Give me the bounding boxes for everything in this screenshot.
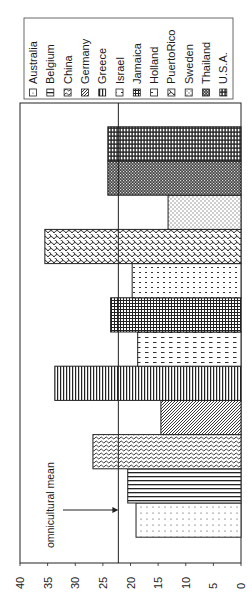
- bar-greece: [55, 366, 241, 400]
- bar-germany: [161, 400, 241, 434]
- axis-tick-label: 15: [152, 577, 164, 589]
- bar-thailand: [108, 161, 241, 195]
- value-axis: 0510152025303540: [14, 563, 247, 589]
- legend-swatch-icon: [30, 89, 37, 96]
- legend-swatch-icon: [81, 89, 88, 96]
- legend: AustraliaBelgiumChinaGermanyGreeceIsrael…: [24, 18, 233, 99]
- legend-label: Greece: [96, 48, 108, 84]
- axis-tick-label: 40: [14, 577, 26, 589]
- legend-label: Australia: [27, 40, 39, 84]
- legend-label: Israel: [114, 57, 126, 84]
- bar-belgium: [128, 469, 241, 503]
- legend-swatch-icon: [185, 89, 192, 96]
- axis-tick-label: 30: [69, 577, 81, 589]
- legend-swatch-icon: [64, 89, 71, 96]
- legend-swatch-icon: [99, 89, 106, 96]
- legend-label: Thailand: [200, 42, 212, 84]
- legend-swatch-icon: [151, 89, 158, 96]
- legend-label: Holland: [148, 47, 160, 84]
- bar-usa: [108, 127, 241, 161]
- axis-tick-label: 0: [235, 583, 247, 589]
- bar-puertorico: [45, 229, 241, 263]
- legend-label: PuertoRico: [165, 30, 177, 84]
- axis-tick-label: 35: [42, 577, 54, 589]
- bar-jamaica: [111, 298, 241, 332]
- legend-label: Jamaica: [131, 42, 143, 84]
- legend-swatch-icon: [220, 89, 227, 96]
- bar-sweden: [168, 195, 241, 229]
- axis-tick-label: 25: [97, 577, 109, 589]
- axis-tick-label: 10: [180, 577, 192, 589]
- legend-swatch-icon: [47, 89, 54, 96]
- bar-holland: [132, 264, 241, 298]
- legend-label: Belgium: [44, 44, 56, 84]
- mean-label: omnicultural mean: [44, 462, 56, 548]
- bar-australia: [136, 503, 241, 537]
- axis-tick-label: 5: [207, 583, 219, 589]
- legend-label: U.S.A.: [217, 52, 229, 84]
- legend-swatch-icon: [203, 89, 210, 96]
- legend-swatch-icon: [168, 89, 175, 96]
- legend-label: China: [62, 54, 74, 84]
- legend-swatch-icon: [133, 89, 140, 96]
- bar-israel: [138, 332, 241, 366]
- plot-area: omnicultural mean: [20, 103, 241, 563]
- bar-china: [93, 435, 241, 469]
- legend-label: Germany: [79, 38, 91, 84]
- axis-tick-label: 20: [125, 577, 137, 589]
- legend-label: Sweden: [183, 44, 195, 84]
- rotated-bar-chart: AustraliaBelgiumChinaGermanyGreeceIsrael…: [0, 0, 252, 595]
- legend-swatch-icon: [116, 89, 123, 96]
